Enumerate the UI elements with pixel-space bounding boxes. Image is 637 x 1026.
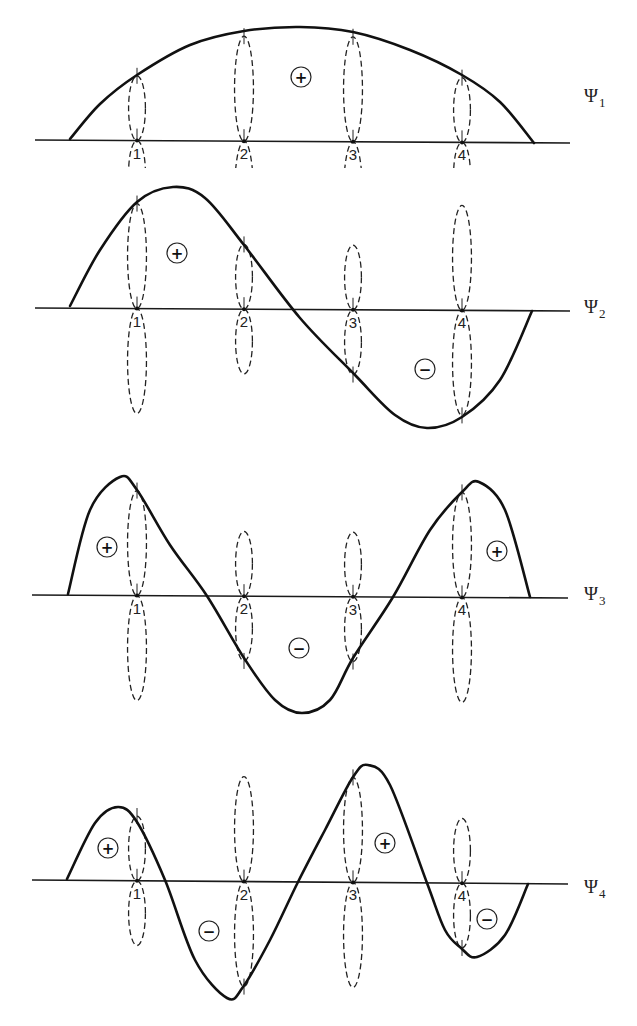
atom-nucleus <box>135 307 139 311</box>
phase-sign: + <box>101 539 114 557</box>
orbital-label: Ψ3 <box>584 583 606 608</box>
atom-nucleus <box>351 140 355 144</box>
orbital-label: Ψ4 <box>584 876 606 901</box>
molecular-axis <box>35 308 570 311</box>
negative-phase-marker: − <box>415 359 435 379</box>
phase-sign: − <box>481 911 494 929</box>
upper-lobe-atom-1 <box>128 491 147 596</box>
upper-lobe-atom-4 <box>453 492 472 597</box>
atom-label: 4 <box>458 146 466 163</box>
atom-label: 4 <box>458 887 466 904</box>
orbital-panel-psi-2: 1234+−Ψ2 <box>35 187 606 428</box>
molecular-orbital-diagram: 1234+Ψ11234+−Ψ21234+−+Ψ31234+−+−Ψ4 <box>0 0 637 1026</box>
upper-lobe-atom-4 <box>453 205 472 310</box>
atom-nucleus <box>242 139 246 143</box>
upper-lobe-atom-2 <box>235 36 254 141</box>
atom-nucleus <box>351 595 355 599</box>
positive-phase-marker: + <box>291 67 311 87</box>
phase-sign: − <box>293 640 306 658</box>
atom-label: 1 <box>133 600 141 617</box>
atom-label: 1 <box>133 313 141 330</box>
atom-nucleus <box>460 881 464 885</box>
molecular-axis <box>35 140 570 143</box>
positive-phase-marker: + <box>97 537 117 557</box>
atom-nucleus <box>460 140 464 144</box>
phase-sign: + <box>295 69 308 87</box>
atom-label: 3 <box>349 314 357 331</box>
positive-phase-marker: + <box>487 541 507 561</box>
atom-nucleus <box>351 880 355 884</box>
phase-sign: − <box>203 923 216 941</box>
negative-phase-marker: − <box>477 909 497 929</box>
atom-nucleus <box>351 308 355 312</box>
orbital-label: Ψ1 <box>584 85 606 110</box>
orbital-label: Ψ2 <box>584 296 606 321</box>
atom-nucleus <box>135 879 139 883</box>
upper-lobe-atom-1 <box>128 204 147 309</box>
atom-label: 3 <box>349 601 357 618</box>
negative-phase-marker: − <box>289 638 309 658</box>
orbital-panel-psi-1: 1234+Ψ1 <box>35 27 606 247</box>
atom-label: 2 <box>240 145 248 162</box>
atom-nucleus <box>242 880 246 884</box>
orbital-panel-psi-3: 1234+−+Ψ3 <box>32 476 606 713</box>
atom-nucleus <box>460 308 464 312</box>
phase-sign: + <box>171 245 184 263</box>
atom-label: 4 <box>458 314 466 331</box>
atom-label: 3 <box>349 886 357 903</box>
positive-phase-marker: + <box>375 833 395 853</box>
atom-label: 2 <box>240 886 248 903</box>
atom-nucleus <box>460 595 464 599</box>
phase-sign: − <box>419 361 432 379</box>
orbital-panel-psi-4: 1234+−+−Ψ4 <box>32 765 606 1000</box>
atom-label: 1 <box>133 145 141 162</box>
molecular-axis <box>32 595 568 598</box>
atom-label: 1 <box>133 885 141 902</box>
atom-nucleus <box>135 594 139 598</box>
atom-nucleus <box>242 594 246 598</box>
upper-lobe-atom-2 <box>235 777 254 882</box>
negative-phase-marker: − <box>199 921 219 941</box>
positive-phase-marker: + <box>167 243 187 263</box>
positive-phase-marker: + <box>98 838 118 858</box>
atom-nucleus <box>135 139 139 143</box>
upper-lobe-atom-3 <box>344 37 363 142</box>
phase-sign: + <box>491 543 504 561</box>
atom-label: 2 <box>240 313 248 330</box>
upper-lobe-atom-3 <box>344 777 363 882</box>
phase-sign: + <box>102 840 115 858</box>
atom-nucleus <box>242 307 246 311</box>
atom-label: 2 <box>240 600 248 617</box>
atom-label: 4 <box>458 601 466 618</box>
phase-sign: + <box>379 835 392 853</box>
atom-label: 3 <box>349 146 357 163</box>
